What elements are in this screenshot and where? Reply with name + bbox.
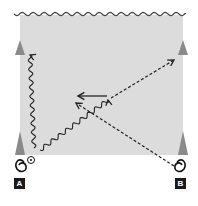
player-A [16, 157, 35, 172]
player-label-B: B [175, 178, 186, 189]
player-icon [175, 160, 185, 172]
diagram-canvas [0, 0, 198, 206]
player-label-A: A [14, 178, 25, 189]
field-area [20, 15, 183, 155]
ball-dot [30, 159, 32, 161]
drill-diagram: A B [0, 0, 198, 206]
player-icon [16, 160, 26, 172]
player-B [175, 160, 185, 172]
